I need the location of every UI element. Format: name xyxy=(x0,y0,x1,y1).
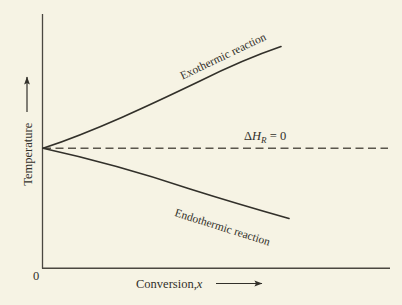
delta-h-zero-annotation: ΔHR = 0 xyxy=(244,130,286,145)
origin-tick-label: 0 xyxy=(33,270,39,283)
x-axis-title-text: Conversion, xyxy=(136,277,197,291)
figure-canvas: 0 Conversion,x Temperature ΔHR = 0 Exoth… xyxy=(0,0,402,305)
equals-zero-text: = 0 xyxy=(270,129,286,143)
chart-plot-area xyxy=(0,0,402,305)
enthalpy-subscript: R xyxy=(261,135,267,145)
enthalpy-symbol: H xyxy=(252,129,261,143)
delta-symbol: Δ xyxy=(244,129,252,143)
series-line-endothermic xyxy=(43,148,289,218)
x-axis-title: Conversion,x xyxy=(136,278,202,291)
y-axis-title: Temperature xyxy=(22,109,35,199)
x-axis-title-variable: x xyxy=(197,277,203,291)
